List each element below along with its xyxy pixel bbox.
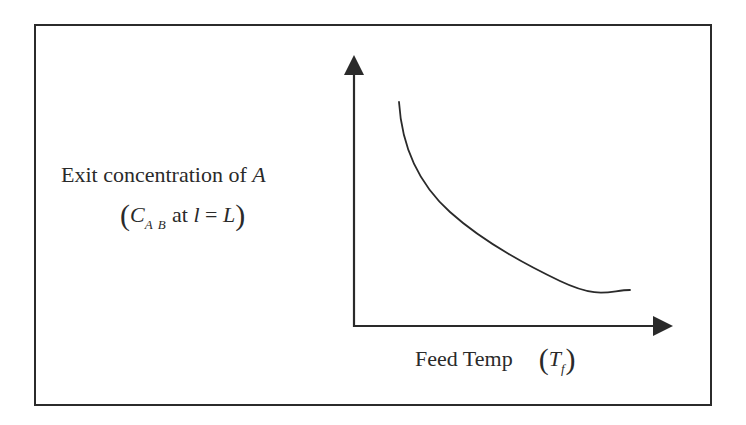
open-paren: (: [120, 198, 130, 231]
equals-sign: =: [200, 202, 223, 227]
plot-area: [0, 0, 746, 425]
y-axis-arrow-icon: [344, 55, 364, 75]
y-axis-label-line2: (CA B at l = L): [120, 200, 245, 231]
decreasing-curve: [399, 102, 630, 293]
x-axis-label: Feed Temp(Tf): [415, 344, 576, 375]
y-axis-label-line1: Exit concentration of A: [61, 164, 266, 186]
diagram-figure: Exit concentration of A (CA B at l = L) …: [0, 0, 746, 425]
close-paren: ): [566, 342, 576, 375]
text-at: at: [167, 202, 194, 227]
open-paren: (: [539, 342, 549, 375]
close-paren: ): [235, 198, 245, 231]
y-axis-label-symbol-a: A: [252, 162, 265, 187]
subscript-ab: A B: [145, 217, 167, 232]
y-axis-label-text: Exit concentration of: [61, 162, 247, 187]
symbol-L: L: [223, 202, 235, 227]
symbol-t: T: [549, 346, 561, 371]
x-axis-label-text: Feed Temp: [415, 346, 513, 371]
x-axis-arrow-icon: [653, 316, 673, 336]
symbol-c: C: [130, 202, 145, 227]
